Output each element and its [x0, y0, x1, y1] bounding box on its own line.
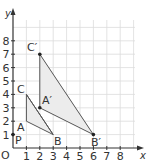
y-axis-arrow-icon	[11, 8, 16, 15]
x-tick-label: 6	[90, 150, 97, 161]
y-tick-label: 2	[3, 115, 10, 128]
x-tick-label: 2	[36, 150, 43, 161]
y-axis-label: y	[4, 8, 12, 19]
label-a: A	[17, 121, 25, 134]
label-p: P	[15, 134, 22, 147]
x-tick-label: 8	[117, 150, 124, 161]
y-tick-label: 4	[3, 88, 10, 101]
label-b-prime: B′	[91, 136, 102, 149]
label-a-prime: A′	[42, 94, 53, 107]
label-c-prime: C′	[27, 41, 38, 54]
x-tick-label: 4	[63, 150, 70, 161]
axes	[13, 12, 140, 148]
y-tick-label: 3	[3, 102, 10, 115]
coordinate-grid-diagram: 1 2 3 4 5 6 7 8 1 2 3 4 5 6 7 8 y x O P …	[0, 0, 151, 161]
point-c-prime	[38, 52, 42, 56]
origin-label: O	[1, 149, 10, 161]
y-tick-label: 5	[3, 75, 10, 88]
x-axis-label: x	[139, 150, 146, 161]
label-b: B	[54, 135, 62, 148]
y-tick-label: 8	[3, 35, 10, 48]
x-tick-label: 1	[23, 150, 30, 161]
y-tick-label: 6	[3, 62, 10, 75]
y-tick-label: 1	[3, 129, 10, 142]
grid	[13, 20, 135, 148]
y-tick-label: 7	[3, 48, 10, 61]
x-tick-label: 5	[77, 150, 84, 161]
x-tick-label: 7	[103, 150, 110, 161]
x-tick-label: 3	[50, 150, 57, 161]
label-c: C	[17, 83, 25, 96]
